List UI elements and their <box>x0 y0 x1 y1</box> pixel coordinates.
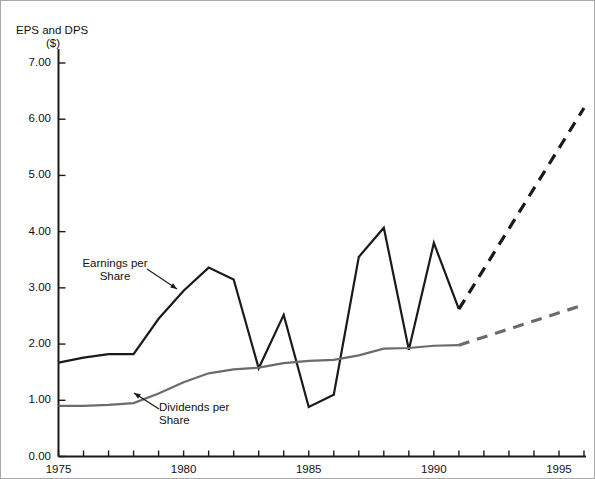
series-line <box>459 305 584 345</box>
y-tick-label: 6.00 <box>11 112 51 124</box>
annotation-dps-line1: Dividends per <box>159 401 229 413</box>
annotation-eps-line1: Earnings per <box>82 257 147 269</box>
chart-figure: EPS and DPS ($) 0.001.002.003.004.005.00… <box>0 0 595 479</box>
plot-area <box>1 1 595 479</box>
x-tick-label: 1985 <box>284 463 334 475</box>
x-tick-label: 1975 <box>34 463 84 475</box>
y-tick-label: 3.00 <box>11 281 51 293</box>
y-tick-label: 0.00 <box>11 450 51 462</box>
annotation-dps-line2: Share <box>159 414 190 426</box>
y-tick-label: 2.00 <box>11 337 51 349</box>
annotation-dividends-per-share: Dividends per Share <box>159 401 269 427</box>
y-tick-label: 5.00 <box>11 168 51 180</box>
y-tick-label: 4.00 <box>11 225 51 237</box>
y-tick-label: 7.00 <box>11 56 51 68</box>
x-tick-label: 1980 <box>159 463 209 475</box>
series-line <box>59 228 459 407</box>
series-line <box>459 108 584 309</box>
annotation-eps-line2: Share <box>100 270 131 282</box>
annotation-earnings-per-share: Earnings per Share <box>69 257 161 283</box>
y-tick-label: 1.00 <box>11 393 51 405</box>
x-tick-label: 1990 <box>409 463 459 475</box>
x-tick-label: 1995 <box>534 463 584 475</box>
